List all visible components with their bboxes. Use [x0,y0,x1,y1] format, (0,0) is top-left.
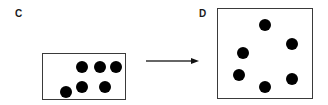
dot [99,81,111,93]
dot [60,86,72,98]
dot [110,61,122,73]
dot [286,38,298,50]
transition-arrow-icon [0,0,328,105]
dot [233,69,245,81]
dot [286,73,298,85]
dot [94,61,106,73]
dot [76,61,88,73]
dot [237,47,249,59]
dot [259,81,271,93]
dot [259,19,271,31]
dot [76,81,88,93]
